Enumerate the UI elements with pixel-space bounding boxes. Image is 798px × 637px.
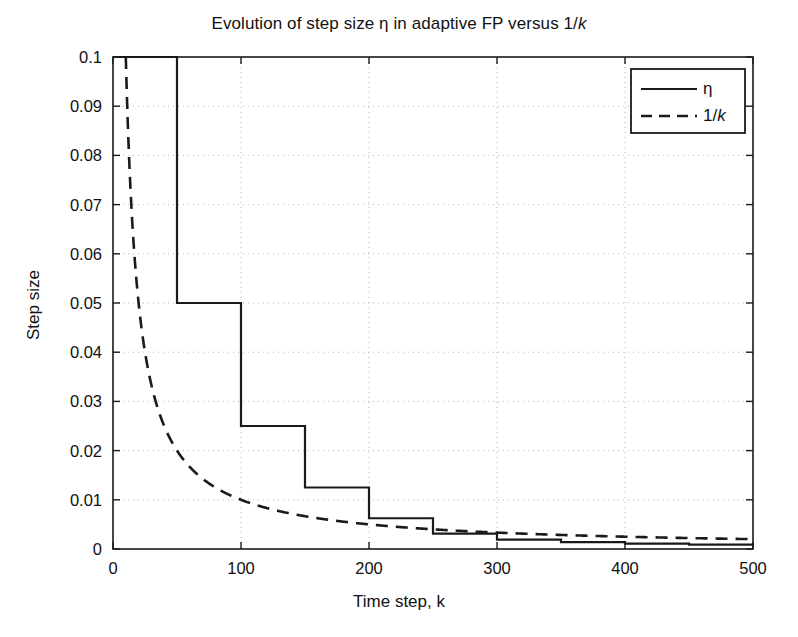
x-tick-label: 500 <box>739 559 767 578</box>
legend-label-one-over-k-italic: k <box>717 106 726 125</box>
legend-label-one-over-k: 1/k <box>703 106 726 126</box>
legend-frame <box>631 69 745 133</box>
y-tick-label: 0.07 <box>14 195 102 214</box>
x-tick-label: 0 <box>108 559 117 578</box>
y-tick-label: 0.08 <box>14 146 102 165</box>
y-tick-label: 0.04 <box>14 343 102 362</box>
x-tick-label: 300 <box>483 559 511 578</box>
legend-label-eta-text: η <box>703 79 712 98</box>
x-axis-title-text: Time step, <box>353 592 436 611</box>
x-tick-label: 200 <box>355 559 383 578</box>
x-axis-title: Time step, k <box>0 592 798 612</box>
y-tick-label: 0.09 <box>14 97 102 116</box>
x-tick-label: 100 <box>227 559 255 578</box>
y-tick-label: 0.02 <box>14 441 102 460</box>
x-axis-title-italic-k: k <box>436 592 445 611</box>
y-tick-label: 0.03 <box>14 392 102 411</box>
legend-label-one-over-k-text: 1/ <box>703 106 717 125</box>
plot-canvas <box>0 0 798 637</box>
legend-label-eta: η <box>703 79 712 99</box>
y-tick-label: 0.01 <box>14 490 102 509</box>
x-tick-label: 400 <box>611 559 639 578</box>
y-tick-label: 0.05 <box>14 294 102 313</box>
y-tick-label: 0.1 <box>14 48 102 67</box>
chart-figure: Evolution of step size η in adaptive FP … <box>0 0 798 637</box>
y-tick-label: 0 <box>14 540 102 559</box>
y-tick-label: 0.06 <box>14 244 102 263</box>
legend-box <box>631 69 745 133</box>
